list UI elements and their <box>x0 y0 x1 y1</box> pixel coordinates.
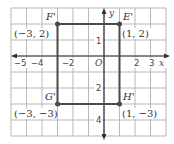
y-axis-label: y <box>108 8 115 18</box>
y-axis-down-arrow-icon <box>102 134 107 140</box>
x-tick-label: −4 <box>31 58 44 68</box>
point-e-prime <box>117 22 122 27</box>
point-g-prime <box>55 102 60 107</box>
coord-h-prime: (1, −3) <box>122 108 157 119</box>
x-axis-label: x <box>159 58 164 68</box>
label-h-prime: H' <box>122 91 134 102</box>
coord-g-prime: (−3, −3) <box>14 108 58 119</box>
coord-f-prime: (−3, 2) <box>14 28 49 39</box>
x-tick-label: 2 <box>134 58 139 68</box>
point-h-prime <box>117 102 122 107</box>
y-axis-up-arrow-icon <box>102 8 107 14</box>
y-tick-label: 4 <box>96 115 101 125</box>
y-tick-label: 1 <box>96 36 101 46</box>
coordinate-plane: F' E' G' H' (−3, 2) (1, 2) (−3, −3) (1, … <box>0 0 174 144</box>
x-axis-right-arrow-icon <box>164 54 170 59</box>
x-tick-label: −2 <box>62 58 75 68</box>
label-g-prime: G' <box>45 91 56 102</box>
origin-label: O <box>95 58 103 68</box>
x-tick-label: −5 <box>14 58 27 68</box>
x-tick-label: 3 <box>149 58 154 68</box>
label-f-prime: F' <box>45 11 56 22</box>
label-e-prime: E' <box>122 11 133 22</box>
y-tick-label: 2 <box>96 83 101 93</box>
point-f-prime <box>55 22 60 27</box>
coord-e-prime: (1, 2) <box>122 28 149 39</box>
